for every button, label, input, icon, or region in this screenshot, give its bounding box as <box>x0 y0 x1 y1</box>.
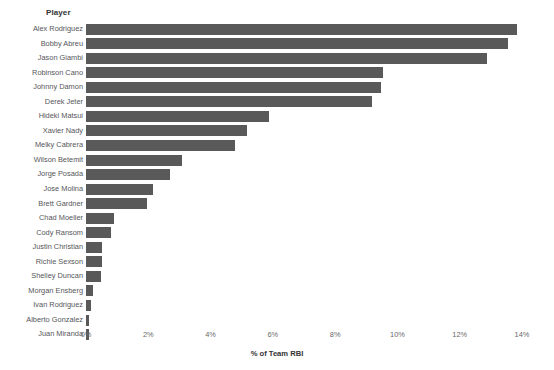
bar-row[interactable]: Jason Giambi <box>0 51 554 66</box>
bar-track <box>86 125 247 136</box>
x-tick-label: 4% <box>205 330 216 339</box>
bar-row-label: Bobby Abreu <box>41 37 83 52</box>
bar[interactable] <box>86 256 102 267</box>
bar-track <box>86 67 383 78</box>
bar-row-label: Jason Giambi <box>38 51 83 66</box>
bar-track <box>86 271 101 282</box>
bar[interactable] <box>86 111 269 122</box>
bar-row[interactable]: Robinson Cano <box>0 66 554 81</box>
bar-row[interactable]: Justin Christian <box>0 240 554 255</box>
bar[interactable] <box>86 271 101 282</box>
bar-track <box>86 315 89 326</box>
bar-row[interactable]: Brett Gardner <box>0 197 554 212</box>
bar-track <box>86 169 170 180</box>
bar[interactable] <box>86 242 102 253</box>
bar-row[interactable]: Derek Jeter <box>0 95 554 110</box>
bar-track <box>86 300 91 311</box>
bar-row-label: Jose Molina <box>44 182 83 197</box>
bar-track <box>86 242 102 253</box>
bar-row[interactable]: Richie Sexson <box>0 255 554 270</box>
x-tick-label: 10% <box>390 330 405 339</box>
plot-area: Alex RodriguezBobby AbreuJason GiambiRob… <box>0 22 554 322</box>
bar[interactable] <box>86 169 170 180</box>
bar-row-label: Alberto Gonzalez <box>26 313 83 328</box>
bar-row[interactable]: Alberto Gonzalez <box>0 313 554 328</box>
bar-row[interactable]: Alex Rodriguez <box>0 22 554 37</box>
x-tick-label: 14% <box>515 330 530 339</box>
bar-track <box>86 111 269 122</box>
bar[interactable] <box>86 198 147 209</box>
bar-track <box>86 82 381 93</box>
bar-row[interactable]: Morgan Ensberg <box>0 284 554 299</box>
bar-row-label: Brett Gardner <box>38 197 83 212</box>
bar-row[interactable]: Ivan Rodriguez <box>0 298 554 313</box>
bar-track <box>86 227 111 238</box>
bar-row-label: Johnny Damon <box>33 80 83 95</box>
bar-track <box>86 213 114 224</box>
bar-row[interactable]: Chad Moeller <box>0 211 554 226</box>
x-tick-label: 12% <box>452 330 467 339</box>
bar[interactable] <box>86 285 93 296</box>
bar[interactable] <box>86 227 111 238</box>
bar-row[interactable]: Xavier Nady <box>0 124 554 139</box>
bar[interactable] <box>86 67 383 78</box>
bar-row-label: Xavier Nady <box>43 124 83 139</box>
x-tick-label: 8% <box>330 330 341 339</box>
bar-row-label: Shelley Duncan <box>31 269 83 284</box>
bar-row[interactable]: Hideki Matsui <box>0 109 554 124</box>
bar-row-label: Robinson Cano <box>32 66 83 81</box>
bar-row-label: Ivan Rodriguez <box>33 298 83 313</box>
bar-chart: Player Alex RodriguezBobby AbreuJason Gi… <box>0 0 554 370</box>
bar-track <box>86 96 372 107</box>
bar-track <box>86 24 517 35</box>
bar-row-label: Morgan Ensberg <box>28 284 83 299</box>
bar-row-label: Alex Rodriguez <box>33 22 83 37</box>
bar[interactable] <box>86 300 91 311</box>
bar[interactable] <box>86 38 508 49</box>
x-tick-label: 0% <box>81 330 92 339</box>
bar-row-label: Jorge Posada <box>37 167 83 182</box>
bar[interactable] <box>86 315 89 326</box>
bar-row[interactable]: Shelley Duncan <box>0 269 554 284</box>
bar-row-label: Hideki Matsui <box>39 109 83 124</box>
bar-track <box>86 140 235 151</box>
bar-row-label: Chad Moeller <box>39 211 83 226</box>
bar[interactable] <box>86 125 247 136</box>
bar-rows: Alex RodriguezBobby AbreuJason GiambiRob… <box>0 22 554 342</box>
bar[interactable] <box>86 155 182 166</box>
x-axis-title: % of Team RBI <box>0 349 554 358</box>
bar-row-label: Melky Cabrera <box>35 138 83 153</box>
dimension-header-player: Player <box>46 8 71 17</box>
bar[interactable] <box>86 82 381 93</box>
bar-row[interactable]: Wilson Betemit <box>0 153 554 168</box>
bar-row[interactable]: Jose Molina <box>0 182 554 197</box>
bar-row[interactable]: Bobby Abreu <box>0 37 554 52</box>
x-axis: 0%2%4%6%8%10%12%14% <box>0 330 554 344</box>
bar-row[interactable]: Melky Cabrera <box>0 138 554 153</box>
x-tick-label: 6% <box>268 330 279 339</box>
bar-row[interactable]: Johnny Damon <box>0 80 554 95</box>
bar-track <box>86 53 487 64</box>
bar-row[interactable]: Jorge Posada <box>0 167 554 182</box>
bar[interactable] <box>86 184 153 195</box>
bar[interactable] <box>86 53 487 64</box>
x-tick-label: 2% <box>143 330 154 339</box>
bar-row-label: Richie Sexson <box>36 255 83 270</box>
bar-track <box>86 285 93 296</box>
bar[interactable] <box>86 140 235 151</box>
bar-row-label: Cody Ransom <box>36 226 83 241</box>
bar-row-label: Wilson Betemit <box>34 153 83 168</box>
bar[interactable] <box>86 24 517 35</box>
bar[interactable] <box>86 213 114 224</box>
bar-row-label: Justin Christian <box>32 240 83 255</box>
bar-track <box>86 198 147 209</box>
bar-track <box>86 256 102 267</box>
bar-track <box>86 38 508 49</box>
bar-row-label: Derek Jeter <box>45 95 83 110</box>
bar-track <box>86 184 153 195</box>
bar-row[interactable]: Cody Ransom <box>0 226 554 241</box>
bar[interactable] <box>86 96 372 107</box>
bar-track <box>86 155 182 166</box>
